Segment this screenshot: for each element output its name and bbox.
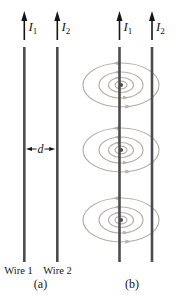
current-label-i2: I2 (155, 19, 165, 36)
wire-2-label: Wire 2 (43, 265, 71, 276)
current-arrow-i2 (149, 11, 155, 40)
wire-2 (151, 47, 154, 262)
panel-b-caption: (b) (125, 277, 139, 291)
arrow-up-icon (54, 11, 60, 21)
wire-1 (118, 47, 121, 262)
arrow-up-icon (21, 11, 27, 21)
wire-cross-section-dot (119, 148, 123, 152)
panel-b: I1 I2 (b) (83, 11, 165, 291)
current-arrow-i2 (54, 11, 60, 40)
figure-canvas: I1 I2 d Wire 1 Wire 2 (a) I1 (0, 0, 188, 298)
arrow-right-icon (49, 147, 55, 151)
panel-a-caption: (a) (34, 277, 47, 291)
current-arrow-i1 (21, 11, 27, 40)
distance-label: d (38, 142, 45, 156)
wire-cross-section-dot (119, 218, 123, 222)
current-label-i2: I2 (61, 19, 71, 36)
wire-2 (56, 47, 59, 262)
current-label-i1: I1 (123, 19, 133, 36)
wire-1 (23, 47, 26, 262)
arrow-up-icon (117, 11, 123, 21)
arrow-up-icon (149, 11, 155, 21)
distance-marker: d (26, 142, 55, 156)
arrow-left-icon (26, 147, 32, 151)
figure-parallel-wires: I1 I2 d Wire 1 Wire 2 (a) I1 (0, 0, 188, 298)
current-label-i1: I1 (28, 19, 38, 36)
current-arrow-i1 (117, 11, 123, 40)
panel-a: I1 I2 d Wire 1 Wire 2 (a) (4, 11, 71, 291)
wire-cross-section-dot (119, 83, 123, 87)
wire-1-label: Wire 1 (4, 265, 32, 276)
